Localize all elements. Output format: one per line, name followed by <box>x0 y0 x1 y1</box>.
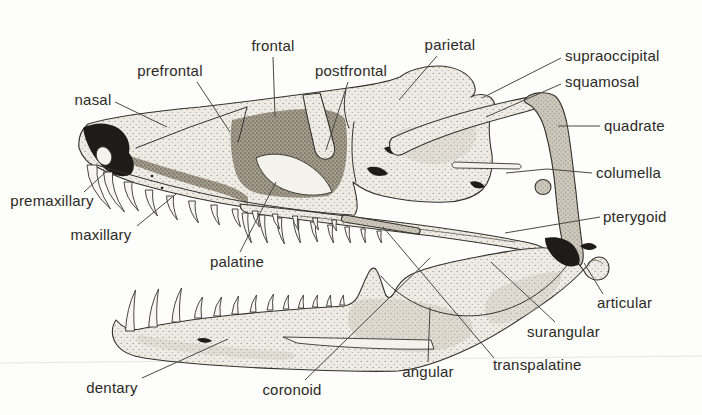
label-coronoid: coronoid <box>262 381 321 398</box>
tooth <box>340 295 345 305</box>
tooth <box>145 190 157 216</box>
tooth <box>312 295 317 307</box>
tooth <box>211 205 220 225</box>
label-articular: articular <box>597 294 652 311</box>
maxilla-foramen-2 <box>161 187 164 190</box>
label-maxillary: maxillary <box>71 226 132 243</box>
label-pterygoid: pterygoid <box>603 208 667 225</box>
label-frontal: frontal <box>251 37 294 54</box>
leader-columella <box>506 169 592 173</box>
skull-diagram-canvas: nasalprefrontalfrontalpostfrontalparieta… <box>0 0 702 415</box>
label-nasal: nasal <box>75 91 112 108</box>
tooth <box>328 225 334 243</box>
tooth <box>126 290 136 331</box>
label-angular: angular <box>402 363 453 380</box>
label-supraoccipital: supraoccipital <box>565 47 660 64</box>
label-transpalatine: transpalatine <box>493 356 582 373</box>
tooth <box>232 209 241 227</box>
leader-pterygoid <box>505 217 600 233</box>
maxilla-foramen-1 <box>151 175 154 178</box>
tooth <box>189 201 199 223</box>
tooth <box>327 295 332 306</box>
tooth <box>149 289 159 327</box>
tooth <box>195 297 203 318</box>
label-dentary: dentary <box>86 379 138 396</box>
tooth <box>214 297 222 316</box>
tooth <box>232 296 239 314</box>
label-surangular: surangular <box>527 323 600 340</box>
tooth <box>283 295 289 309</box>
label-palatine: palatine <box>210 253 264 270</box>
label-prefrontal: prefrontal <box>137 62 202 79</box>
tooth <box>267 294 274 310</box>
label-postfrontal: postfrontal <box>315 62 387 79</box>
label-quadrate: quadrate <box>604 117 665 134</box>
tooth <box>124 182 139 211</box>
label-parietal: parietal <box>425 36 476 53</box>
stapedial-knob <box>535 180 551 195</box>
tooth <box>377 231 382 243</box>
snake-skull-figure: nasalprefrontalfrontalpostfrontalparieta… <box>0 0 702 415</box>
columella-bone <box>452 162 521 169</box>
tooth <box>345 227 351 243</box>
label-columella: columella <box>596 164 662 181</box>
tooth <box>166 196 177 220</box>
tooth <box>172 288 182 322</box>
tooth <box>259 215 268 243</box>
tooth <box>361 229 366 243</box>
tooth <box>250 295 257 312</box>
label-squamosal: squamosal <box>565 73 639 90</box>
label-premaxillary: premaxillary <box>10 192 94 209</box>
leader-supraoccipital <box>482 58 561 98</box>
tooth <box>298 295 303 308</box>
